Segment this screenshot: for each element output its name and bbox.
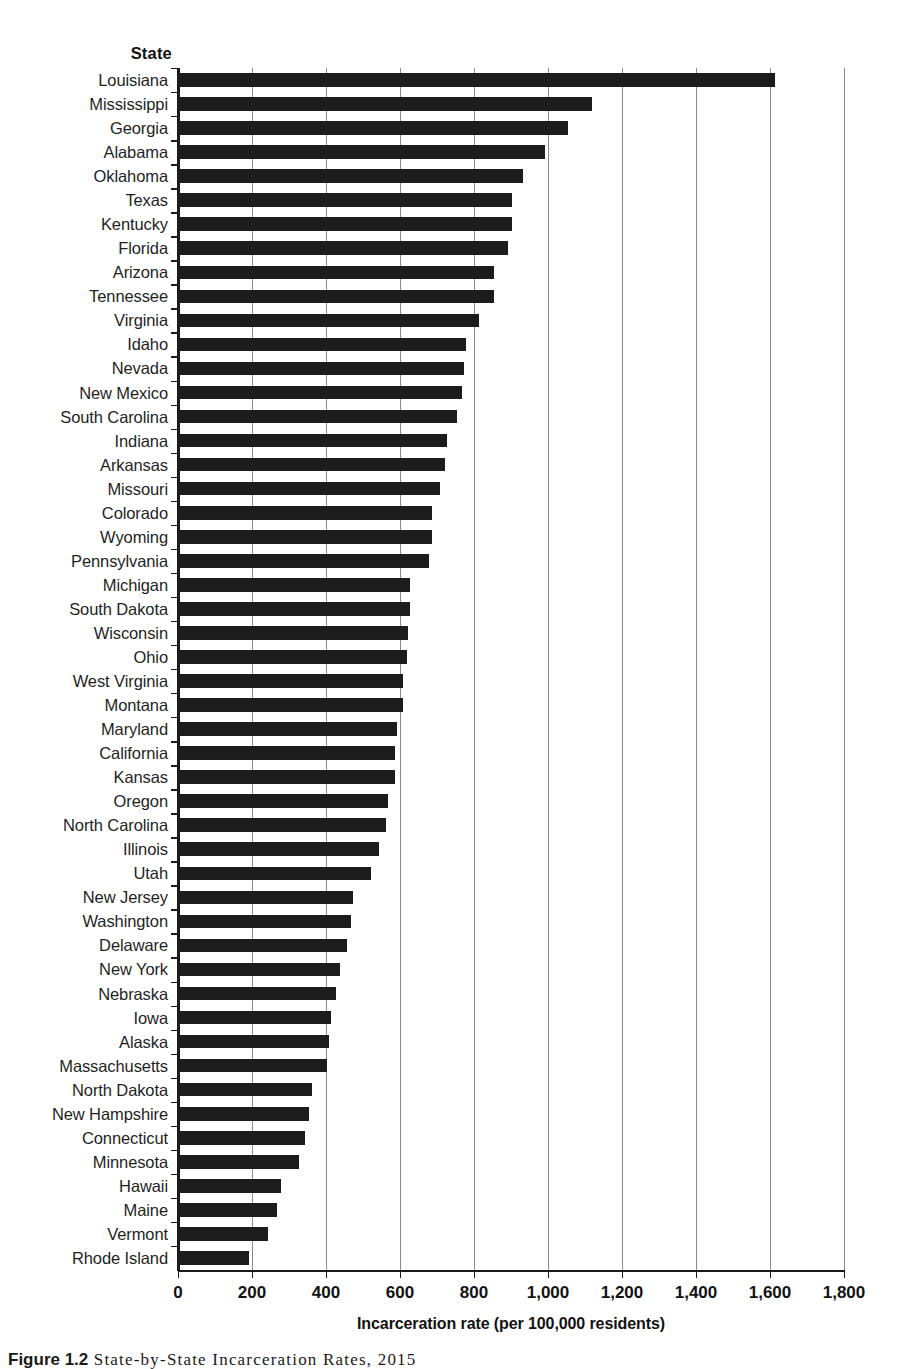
bar-label-hawaii: Hawaii: [0, 1174, 168, 1198]
x-axis-tick-400: [326, 1270, 327, 1278]
y-axis-tick: [171, 741, 178, 742]
bar-label-new-hampshire: New Hampshire: [0, 1102, 168, 1126]
y-axis-tick: [171, 597, 178, 598]
bar-north-dakota: [179, 1083, 312, 1097]
bar-row: Ohio: [0, 645, 905, 669]
y-axis-tick: [171, 1030, 178, 1031]
y-axis-tick: [171, 116, 178, 117]
bar-label-oregon: Oregon: [0, 789, 168, 813]
bar-kentucky: [179, 217, 512, 231]
bar-row: Arizona: [0, 260, 905, 284]
y-axis-tick: [171, 501, 178, 502]
bar-label-indiana: Indiana: [0, 429, 168, 453]
bar-row: Missouri: [0, 477, 905, 501]
y-axis-header: State: [0, 44, 172, 63]
x-axis-tick-1200: [622, 1270, 623, 1278]
y-axis-tick: [171, 573, 178, 574]
x-axis-tick-1600: [770, 1270, 771, 1278]
plot-area: LouisianaMississippiGeorgiaAlabamaOklaho…: [178, 68, 844, 1270]
bar-label-colorado: Colorado: [0, 501, 168, 525]
y-axis-tick: [171, 669, 178, 670]
bar-oregon: [179, 794, 388, 808]
bar-row: Vermont: [0, 1222, 905, 1246]
bar-row: Illinois: [0, 837, 905, 861]
bar-label-tennessee: Tennessee: [0, 284, 168, 308]
bar-row: Washington: [0, 909, 905, 933]
y-axis-tick: [171, 885, 178, 886]
bar-label-virginia: Virginia: [0, 308, 168, 332]
y-axis-tick: [171, 525, 178, 526]
y-axis-tick: [171, 308, 178, 309]
x-axis-tick-1800: [844, 1270, 845, 1278]
bar-label-massachusetts: Massachusetts: [0, 1054, 168, 1078]
bar-row: South Carolina: [0, 405, 905, 429]
bar-label-idaho: Idaho: [0, 332, 168, 356]
y-axis-tick: [171, 164, 178, 165]
bar-label-north-dakota: North Dakota: [0, 1078, 168, 1102]
bar-west-virginia: [179, 674, 403, 688]
caption-number: Figure 1.2: [8, 1350, 88, 1369]
bar-new-york: [179, 963, 340, 977]
y-axis-tick: [171, 284, 178, 285]
x-axis-label-1800: 1,800: [799, 1283, 889, 1303]
bar-row: Iowa: [0, 1006, 905, 1030]
bar-row: Massachusetts: [0, 1054, 905, 1078]
bar-row: Wyoming: [0, 525, 905, 549]
y-axis-tick: [171, 212, 178, 213]
bar-label-alabama: Alabama: [0, 140, 168, 164]
bar-label-illinois: Illinois: [0, 837, 168, 861]
bar-row: Kentucky: [0, 212, 905, 236]
bar-wyoming: [179, 530, 432, 544]
bar-label-oklahoma: Oklahoma: [0, 164, 168, 188]
bar-row: Texas: [0, 188, 905, 212]
bar-arizona: [179, 266, 494, 280]
bar-alaska: [179, 1035, 329, 1049]
bar-minnesota: [179, 1155, 299, 1169]
bar-iowa: [179, 1011, 331, 1025]
bar-row: New Hampshire: [0, 1102, 905, 1126]
bar-row: Rhode Island: [0, 1246, 905, 1270]
bar-tennessee: [179, 290, 494, 304]
bar-row: Mississippi: [0, 92, 905, 116]
bar-colorado: [179, 506, 432, 520]
bar-label-california: California: [0, 741, 168, 765]
bar-row: West Virginia: [0, 669, 905, 693]
bar-label-washington: Washington: [0, 909, 168, 933]
bar-south-dakota: [179, 602, 410, 616]
y-axis-tick: [171, 188, 178, 189]
bar-row: Florida: [0, 236, 905, 260]
bar-pennsylvania: [179, 554, 429, 568]
bar-label-alaska: Alaska: [0, 1030, 168, 1054]
bar-new-jersey: [179, 891, 353, 905]
bar-louisiana: [179, 73, 775, 87]
bar-label-maine: Maine: [0, 1198, 168, 1222]
y-axis-tick: [171, 909, 178, 910]
figure-caption: Figure 1.2 State-by-State Incarceration …: [8, 1350, 898, 1369]
bar-virginia: [179, 314, 479, 328]
bar-label-missouri: Missouri: [0, 477, 168, 501]
caption-text: State-by-State Incarceration Rates, 2015: [88, 1350, 416, 1369]
x-axis-tick-0: [178, 1270, 179, 1278]
y-axis-tick: [171, 813, 178, 814]
bar-label-kentucky: Kentucky: [0, 212, 168, 236]
bar-connecticut: [179, 1131, 305, 1145]
y-axis-tick: [171, 1078, 178, 1079]
bar-row: Wisconsin: [0, 621, 905, 645]
bar-south-carolina: [179, 410, 457, 424]
bar-mississippi: [179, 97, 592, 111]
bar-label-nevada: Nevada: [0, 356, 168, 380]
bar-vermont: [179, 1227, 268, 1241]
y-axis-tick: [171, 1006, 178, 1007]
bar-idaho: [179, 338, 466, 352]
bar-utah: [179, 867, 371, 881]
y-axis-tick: [171, 1246, 178, 1247]
y-axis-tick: [171, 140, 178, 141]
bar-row: Louisiana: [0, 68, 905, 92]
bar-maine: [179, 1203, 277, 1217]
bar-row: Delaware: [0, 933, 905, 957]
y-axis-tick: [171, 549, 178, 550]
bar-nevada: [179, 362, 464, 376]
bar-wisconsin: [179, 626, 408, 640]
y-axis-tick: [171, 837, 178, 838]
bar-indiana: [179, 434, 447, 448]
